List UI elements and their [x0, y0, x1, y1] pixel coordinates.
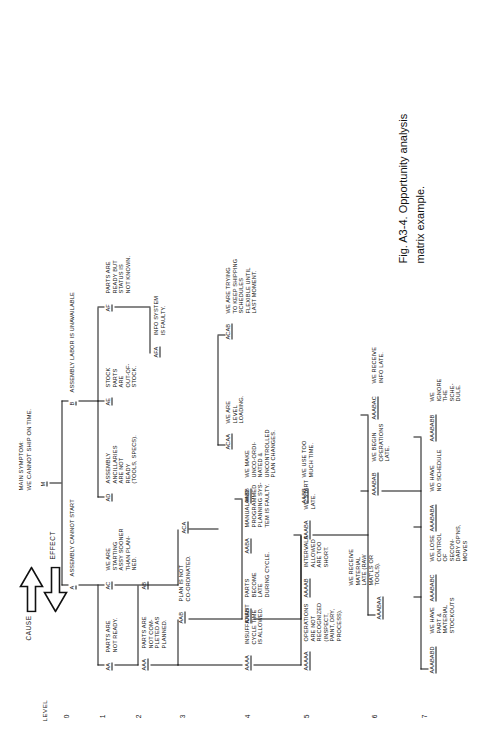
node-code-AC: AC — [104, 581, 112, 589]
cause-label: CAUSE — [24, 615, 31, 640]
node-code-AAABABB: AAABABB — [428, 414, 436, 441]
node-code-AAAAB: AAAAB — [302, 578, 310, 597]
node-code-B: B — [68, 401, 76, 405]
connector-a-level2-bus — [97, 585, 98, 665]
connector-aa-down — [114, 664, 138, 665]
node-text-AAB: PLAN IS NOT CO-ORDINATED. — [177, 555, 190, 601]
connector-aabb-tick — [234, 498, 242, 499]
main-symptom-title: MAIN SYMPTOM: — [17, 440, 24, 490]
connector-aaababa-tick — [413, 526, 421, 527]
node-code-AAABAA: AAABAA — [375, 596, 383, 619]
level-number-0: 0 — [62, 711, 69, 721]
effect-arrow-icon — [42, 566, 68, 612]
cause-arrow-icon — [18, 566, 44, 612]
connector-level1-left-tick — [61, 584, 68, 585]
node-text-AAABAC: WE RECEIVE INFO LATE. — [370, 346, 383, 383]
connector-aaa-down — [150, 664, 178, 665]
connector-ae-tick — [97, 400, 104, 401]
connector-m-down — [49, 483, 61, 484]
connector-b-down — [78, 400, 98, 401]
node-text-AA: PARTS ARE NOT READY. — [104, 617, 117, 652]
connector-ac-tick — [97, 584, 104, 585]
node-text-AABB: WE MAKE UNCO-ORDI- NATED & UNCONTROLLED … — [243, 429, 276, 477]
node-text-AD: ASSEMBLY ANCILLARIES ARE NOT READY (TOOL… — [104, 435, 137, 483]
node-code-AF: AF — [104, 304, 112, 311]
level-number-5: 5 — [302, 711, 309, 721]
node-text-AAA: PARTS ARE NOT COM- PLETED AS PLANNED. — [140, 616, 166, 648]
connector-aaabab-down — [381, 490, 421, 491]
level-number-7: 7 — [420, 711, 427, 721]
connector-aaabaa-tick — [367, 614, 375, 615]
node-code-AFA: AFA — [152, 346, 160, 357]
node-text-AAABABD: WE HAVE PART & MATERIAL STOCKOUTS — [428, 597, 454, 633]
level-number-3: 3 — [178, 711, 185, 721]
connector-aca-down — [188, 528, 218, 529]
connector-aaaa-down — [253, 664, 301, 665]
node-text-AAABAA: WE RECEIVE MATERIAL LATE (RAW MAT'LS OR … — [347, 548, 380, 585]
node-text-ACAB: WE ARE TRYING TO KEEP SHIPPING SCHEDULES… — [224, 258, 257, 313]
node-text-AAABABA: WE HAVE NO SCHEDULE — [428, 449, 441, 491]
node-text-AFA: INFO SYSTEM IS FAULTY. — [152, 295, 165, 335]
connector-aaabac-tick — [360, 414, 368, 415]
figure-caption-line2: matrix example. — [412, 113, 426, 263]
node-code-AAABA: AAABA — [302, 520, 310, 539]
opportunity-analysis-matrix: LEVEL 0 1 2 3 4 5 6 7 CAUSE EFFECT MAIN … — [0, 0, 486, 733]
node-code-AAA: AAA — [140, 659, 148, 671]
node-code-A: A — [68, 585, 76, 589]
connector-aab-down — [188, 618, 242, 619]
connector-aa-tick — [97, 664, 104, 665]
node-text-AF: PARTS ARE READY BUT STATUS IS NOT KNOWN. — [104, 255, 130, 293]
node-code-AABB: AABB — [243, 488, 251, 503]
effect-label: EFFECT — [48, 531, 55, 559]
node-text-B: ASSEMBLY LABOR IS UNAVAILABLE — [68, 292, 75, 392]
level-number-6: 6 — [370, 711, 377, 721]
figure-caption-line1: Fig. A3-4. Opportunity analysis — [395, 113, 409, 263]
connector-aaababc-tick — [413, 596, 421, 597]
main-symptom-text: WE CANNOT SHIP ON TIME. — [25, 408, 32, 490]
node-code-AAAA: AAAA — [243, 655, 251, 670]
connector-aaabab-tick — [360, 490, 368, 491]
connector-aaa-to-aaaa — [177, 664, 242, 665]
node-text-AAABABB: WE IGNORE THE SCHE- DULE. — [428, 378, 461, 401]
connector-ab-bus — [137, 585, 138, 665]
connector-ac-down — [114, 584, 178, 585]
connector-afa-bus — [149, 307, 150, 353]
node-code-AE: AE — [104, 397, 112, 405]
node-text-AAAB: PARTS BECOME LATE DURING CYCLE. — [243, 551, 269, 597]
rotated-figure-wrapper: LEVEL 0 1 2 3 4 5 6 7 CAUSE EFFECT MAIN … — [0, 0, 486, 733]
level-axis-label: LEVEL — [40, 699, 47, 721]
node-text-AAABA: WE START LATE. — [302, 479, 315, 509]
node-text-AAAAB: INTERVALS ALLOWED ARE TOO SHORT. — [302, 535, 328, 567]
node-code-AAABABA: AAABABA — [428, 504, 436, 531]
node-code-AA: AA — [104, 662, 112, 670]
connector-aaaba-down — [312, 534, 368, 535]
connector-af-down — [114, 306, 150, 307]
node-text-AAAAA: OPERATIONS ARE NOT RECOGNIZED (INSPECT, … — [302, 602, 342, 641]
connector-aaababb-tick — [413, 436, 421, 437]
node-code-AAABAC: AAABAC — [370, 396, 378, 419]
node-text-AE: STOCK PARTS ARE OUT-OF- STOCK. — [104, 363, 137, 387]
node-code-AAABABD: AAABABD — [428, 646, 436, 673]
connector-level7-bus — [420, 437, 421, 669]
connector-ad-tick — [97, 496, 104, 497]
node-code-AAABABC: AAABABC — [428, 574, 436, 601]
connector-a-down — [78, 584, 98, 585]
connector-level1-bus — [61, 400, 62, 585]
node-text-ACAA: WE ARE LEVEL LOADING. — [224, 395, 244, 423]
connector-level1-right-tick — [61, 400, 68, 401]
level-number-2: 2 — [134, 711, 141, 721]
node-text-A: ASSEMBLY CANNOT START — [68, 499, 75, 576]
level-number-4: 4 — [243, 711, 250, 721]
node-text-AAABAB: WE BEGIN OPERATIONS LATE. — [370, 423, 390, 461]
node-code-ACA: ACA — [180, 521, 188, 533]
node-code-ACAB: ACAB — [224, 323, 232, 339]
node-code-AD: AD — [104, 493, 112, 501]
connector-aaab-down — [253, 618, 301, 619]
connector-b-level2-bus — [97, 307, 98, 497]
connector-aab-level4-bus — [241, 499, 242, 619]
node-code-ACAA: ACAA — [224, 433, 232, 449]
level-number-1: 1 — [98, 711, 105, 721]
node-code-AAAAA: AAAAA — [302, 651, 310, 670]
connector-level5-bus-right — [300, 535, 301, 619]
node-code-AABA: AABA — [243, 538, 251, 553]
